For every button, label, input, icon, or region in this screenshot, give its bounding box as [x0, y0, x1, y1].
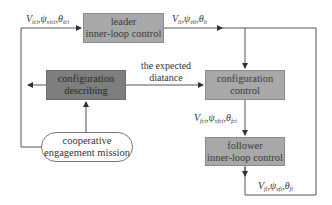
configuration-control-block: configuration control: [205, 70, 285, 100]
follower-label-line1: follower: [227, 140, 263, 152]
leader-output-label: Vli,ψvli,θli: [172, 13, 207, 28]
config-describing-line2: describing: [64, 85, 108, 97]
mission-line2: engagement mission: [44, 147, 130, 159]
config-control-line2: control: [230, 85, 260, 97]
follower-inner-loop-control-block: follower inner-loop control: [205, 137, 285, 166]
leader-command-label: Vlci,ψvlci,θlci: [26, 13, 69, 28]
cooperative-engagement-mission-terminal: cooperative engagement mission: [41, 132, 133, 162]
follower-label-line2: inner-loop control: [207, 152, 283, 164]
leader-label-line1: leader: [111, 16, 137, 28]
connector-wires: [0, 0, 332, 205]
config-control-line1: configuration: [217, 73, 274, 85]
config-describing-line1: configuration: [58, 73, 115, 85]
leader-label-line2: inner-loop control: [86, 28, 162, 40]
follower-output-label: Vfi,ψvfi,θfi: [258, 180, 293, 195]
leader-inner-loop-control-block: leader inner-loop control: [83, 13, 164, 43]
mission-line1: cooperative: [63, 135, 112, 147]
follower-command-label: Vfci,ψvfci,θfci: [194, 112, 237, 127]
configuration-describing-block: configuration describing: [46, 70, 126, 100]
expected-distance-label: the expected diatance: [134, 60, 198, 84]
